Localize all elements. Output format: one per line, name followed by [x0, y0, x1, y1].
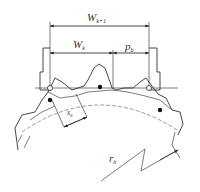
label-w-k: Wk	[73, 38, 85, 51]
base-circle-arc	[22, 105, 180, 132]
base-point-right	[158, 108, 162, 112]
dimension-w-k	[50, 50, 113, 88]
label-w-k1: Wk+1	[87, 11, 106, 24]
pitch-point-center	[98, 85, 102, 89]
contact-point-right	[147, 86, 152, 91]
s-b-arrow	[64, 117, 87, 127]
base-point-left	[48, 98, 52, 102]
gear-measurement-diagram: Wk+1 Wk pb sb rb	[0, 0, 200, 192]
contact-point-left	[48, 86, 53, 91]
label-r-b: rb	[109, 152, 116, 165]
caliper-jaw-left	[40, 48, 50, 90]
label-p-b: pb	[124, 40, 134, 53]
label-s-b: sb	[67, 108, 73, 118]
radius-arrow	[160, 150, 178, 160]
dimension-w-k1	[50, 22, 149, 90]
